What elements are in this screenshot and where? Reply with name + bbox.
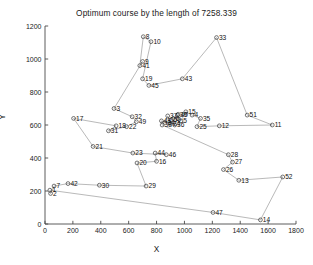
y-tick-label: 1000 xyxy=(26,56,42,63)
node-label: 10 xyxy=(153,38,161,45)
node-label: 15 xyxy=(188,108,196,115)
x-axis-label: X xyxy=(0,244,313,254)
node-label: 14 xyxy=(263,216,271,223)
x-tick-label: 1200 xyxy=(205,227,221,234)
node-label: 52 xyxy=(285,173,293,180)
node-label: 51 xyxy=(250,111,258,118)
node-label: 22 xyxy=(129,123,137,130)
tour-plot-svg: 1234578910111213141516171819202122232526… xyxy=(45,26,296,224)
node-label: 46 xyxy=(169,151,177,158)
node-label: 2 xyxy=(53,190,57,197)
y-tick-label: 200 xyxy=(30,188,42,195)
y-tick-label: 800 xyxy=(30,89,42,96)
node-label: 40 xyxy=(181,111,189,118)
chart-title: Optimum course by the length of 7258.339 xyxy=(0,8,313,18)
node-label: 23 xyxy=(135,149,143,156)
y-tick-label: 400 xyxy=(30,155,42,162)
x-tick-label: 600 xyxy=(123,227,135,234)
y-axis-label: Y xyxy=(0,107,7,127)
node-label: 8 xyxy=(146,33,150,40)
x-tick-label: 400 xyxy=(95,227,107,234)
node-label: 41 xyxy=(142,62,150,69)
x-tick-label: 0 xyxy=(43,227,47,234)
node-label: 27 xyxy=(235,158,243,165)
x-tick-label: 1400 xyxy=(232,227,248,234)
y-tick-label: 600 xyxy=(30,122,42,129)
node-label: 35 xyxy=(203,115,211,122)
node-label: 43 xyxy=(185,75,193,82)
node-label: 3 xyxy=(116,105,120,112)
node-label: 11 xyxy=(275,121,282,128)
x-tick-label: 1800 xyxy=(288,227,304,234)
node-label: 12 xyxy=(222,122,230,129)
node-label: 7 xyxy=(56,182,60,189)
node-label: 33 xyxy=(219,34,227,41)
x-tick-label: 200 xyxy=(67,227,79,234)
node-label: 45 xyxy=(151,82,159,89)
node-labels-group: 1234578910111213141516171819202122232526… xyxy=(52,33,293,223)
node-label: 26 xyxy=(226,166,234,173)
x-tick-label: 1000 xyxy=(177,227,193,234)
node-label: 18 xyxy=(119,122,127,129)
node-label: 42 xyxy=(70,180,78,187)
node-label: 44 xyxy=(158,149,166,156)
node-label: 30 xyxy=(102,182,110,189)
node-label: 48 xyxy=(164,117,172,124)
node-label: 29 xyxy=(149,182,157,189)
node-label: 13 xyxy=(241,177,249,184)
node-label: 21 xyxy=(96,143,104,150)
x-tick-label: 1600 xyxy=(260,227,276,234)
node-label: 17 xyxy=(76,115,84,122)
node-label: 50 xyxy=(174,116,182,123)
y-tick-label: 0 xyxy=(38,221,42,228)
node-label: 25 xyxy=(199,123,207,130)
y-tick-label: 1200 xyxy=(26,23,42,30)
node-label: 49 xyxy=(139,118,147,125)
plot-area: 1234578910111213141516171819202122232526… xyxy=(45,26,296,224)
node-label: 20 xyxy=(139,159,147,166)
x-tick-label: 800 xyxy=(151,227,163,234)
node-label: 16 xyxy=(159,158,167,165)
node-label: 47 xyxy=(215,209,223,216)
node-label: 28 xyxy=(231,151,239,158)
node-label: 31 xyxy=(111,127,119,134)
chart-root: Optimum course by the length of 7258.339… xyxy=(0,0,313,265)
